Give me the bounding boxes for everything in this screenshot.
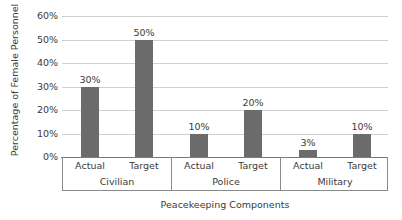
- x-group-label-civilian: Civilian: [63, 174, 171, 190]
- y-tick-label: 10%: [6, 129, 58, 139]
- y-axis-tick-labels: 0% 10% 20% 30% 40% 50% 60%: [0, 16, 58, 157]
- bar-civilian-target: [135, 40, 153, 158]
- x-group-label-police: Police: [172, 174, 280, 190]
- y-tick-label: 60%: [6, 11, 58, 21]
- x-tick-label-civilian-target: Target: [117, 158, 171, 174]
- bar-value-label: 50%: [124, 27, 164, 38]
- y-tick-label: 0%: [6, 152, 58, 162]
- bar-value-label: 3%: [288, 137, 328, 148]
- y-tick-label: 30%: [6, 82, 58, 92]
- x-axis-label-table: Actual Target Civilian Actual Target Pol…: [62, 157, 388, 191]
- x-tick-label-military-actual: Actual: [281, 158, 335, 174]
- bar-value-label: 30%: [70, 74, 110, 85]
- plot-area: 30% 50% 10% 20% 3% 10%: [62, 16, 388, 157]
- bar-police-target: [244, 110, 262, 157]
- bar-value-label: 10%: [179, 121, 219, 132]
- x-axis-title: Peacekeeping Components: [62, 199, 388, 211]
- bar-chart: Percentage of Female Personnel 0% 10% 20…: [0, 0, 402, 220]
- x-tick-label-civilian-actual: Actual: [63, 158, 117, 174]
- bar-military-actual: [299, 150, 317, 157]
- gridline-50: [62, 40, 388, 41]
- gridline-10: [62, 134, 388, 135]
- gridline-30: [62, 87, 388, 88]
- y-tick-label: 40%: [6, 58, 58, 68]
- bar-civilian-actual: [81, 87, 99, 158]
- x-group-label-military: Military: [281, 174, 389, 190]
- y-tick-label: 20%: [6, 105, 58, 115]
- x-tick-label-police-actual: Actual: [172, 158, 226, 174]
- gridline-40: [62, 63, 388, 64]
- x-tick-label-police-target: Target: [226, 158, 280, 174]
- gridline-60: [62, 16, 388, 17]
- y-tick-label: 50%: [6, 35, 58, 45]
- gridline-20: [62, 110, 388, 111]
- x-tick-label-military-target: Target: [335, 158, 389, 174]
- bar-police-actual: [190, 134, 208, 158]
- bar-value-label: 10%: [342, 121, 382, 132]
- bar-value-label: 20%: [233, 97, 273, 108]
- bar-military-target: [353, 134, 371, 158]
